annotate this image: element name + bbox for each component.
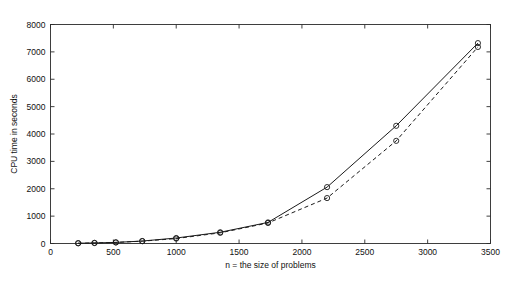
x-tick-label: 0 <box>48 247 53 257</box>
y-tick-label: 4000 <box>27 129 46 139</box>
axis-frame <box>51 25 491 244</box>
y-axis-title: CPU time in seconds <box>9 94 19 173</box>
figure-canvas: 0500100015002000250030003500 01000200030… <box>0 0 521 284</box>
series-line-dashed <box>78 47 478 243</box>
x-tick-label: 3000 <box>418 247 437 257</box>
y-tick-label: 7000 <box>27 47 46 57</box>
series-line-solid <box>78 43 478 243</box>
x-tick-label: 2500 <box>355 247 374 257</box>
y-tick-label: 2000 <box>27 184 46 194</box>
y-tick-label: 6000 <box>27 74 46 84</box>
x-tick-label: 1000 <box>167 247 186 257</box>
y-tick-label: 3000 <box>27 156 46 166</box>
x-tick-label: 500 <box>106 247 120 257</box>
y-tick-label: 0 <box>41 239 46 249</box>
x-tick-label: 1500 <box>230 247 249 257</box>
x-tick-label: 3500 <box>481 247 500 257</box>
cpu-time-line-chart: 0500100015002000250030003500 01000200030… <box>0 0 521 284</box>
y-axis-ticks: 010002000300040005000600070008000 <box>27 20 491 249</box>
x-axis-title: n = the size of problems <box>225 260 315 270</box>
marker-layer <box>76 41 481 246</box>
y-tick-label: 8000 <box>27 20 46 30</box>
y-tick-label: 1000 <box>27 211 46 221</box>
series-layer <box>78 43 478 243</box>
x-axis-ticks: 0500100015002000250030003500 <box>48 25 500 257</box>
x-tick-label: 2000 <box>292 247 311 257</box>
y-tick-label: 5000 <box>27 102 46 112</box>
